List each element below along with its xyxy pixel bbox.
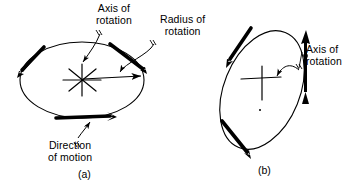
leader-axis-b <box>277 66 299 76</box>
leader-tick-radius-a <box>150 40 156 45</box>
radius-arrow-a <box>83 76 141 79</box>
axis-point-star-a <box>63 64 101 96</box>
rotation-axis-arrow-b <box>301 30 310 104</box>
center-dot-b <box>259 109 261 111</box>
panel-caption-a: (a) <box>78 168 91 180</box>
axis-point-cross-b <box>241 66 281 100</box>
leader-axis-a <box>83 34 100 62</box>
figure-root: Axis of rotation Radius of rotation Dire… <box>0 0 358 183</box>
panel-b <box>204 18 321 161</box>
panel-caption-b: (b) <box>258 164 271 176</box>
velocity-arrow-b-upper-left <box>226 28 251 68</box>
leader-tick-axis-a <box>96 30 102 35</box>
label-direction-of-motion-a: Direction of motion <box>48 140 92 163</box>
label-axis-of-rotation-b: Axis of rotation <box>306 44 342 67</box>
leader-radius-a <box>120 44 154 72</box>
velocity-arrow-a-bottom <box>56 112 117 121</box>
label-radius-of-rotation-a: Radius of rotation <box>160 14 205 37</box>
velocity-arrow-a-upper-right <box>110 44 147 74</box>
leader-direction-a <box>78 122 90 138</box>
panel-a <box>17 30 156 147</box>
label-axis-of-rotation-a: Axis of rotation <box>96 3 132 26</box>
velocity-arrow-b-lower-left <box>222 121 251 159</box>
